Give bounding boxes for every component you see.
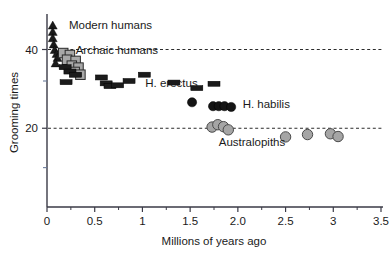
x-tick-label-0: 0 bbox=[44, 215, 50, 227]
y-tick-label-40: 40 bbox=[25, 44, 38, 56]
data-point bbox=[208, 81, 220, 86]
data-point bbox=[95, 75, 107, 80]
series-modern-humans bbox=[48, 21, 62, 67]
gridlines bbox=[48, 50, 382, 129]
series-h-habilis bbox=[187, 98, 235, 112]
x-tick-label-3.5: 3.5 bbox=[373, 215, 389, 227]
data-point bbox=[302, 129, 312, 139]
x-tick-label-1.5: 1.5 bbox=[182, 215, 198, 227]
x-tick-label-1: 1 bbox=[139, 215, 145, 227]
data-point bbox=[70, 72, 82, 77]
y-tick-label-20: 20 bbox=[25, 122, 38, 134]
annotation-archaic-humans: Archaic humans bbox=[76, 44, 159, 56]
x-tick-label-2.5: 2.5 bbox=[278, 215, 294, 227]
data-point bbox=[112, 83, 124, 88]
x-tick-label-0.5: 0.5 bbox=[87, 215, 103, 227]
x-tick-label-3: 3 bbox=[330, 215, 336, 227]
data-point bbox=[123, 79, 135, 84]
annotation-h-habilis: H. habilis bbox=[243, 98, 291, 110]
x-axis-title: Millions of years ago bbox=[162, 235, 267, 247]
x-tick-label-2.0: 2.0 bbox=[230, 215, 246, 227]
grooming-times-chart: 00.511.52.02.533.54020 Modern humansArch… bbox=[0, 0, 392, 267]
chart-canvas: 00.511.52.02.533.54020 Modern humansArch… bbox=[0, 0, 392, 267]
data-point bbox=[187, 98, 196, 107]
annotation-australopiths: Australopiths bbox=[219, 136, 286, 148]
annotation-h-erectus: H. erectus bbox=[145, 77, 198, 89]
data-point bbox=[333, 131, 343, 141]
data-point bbox=[227, 102, 236, 111]
y-axis-title: Grooming times bbox=[8, 72, 20, 153]
data-point bbox=[223, 125, 233, 135]
annotation-modern-humans: Modern humans bbox=[69, 19, 152, 31]
data-point bbox=[60, 80, 72, 85]
